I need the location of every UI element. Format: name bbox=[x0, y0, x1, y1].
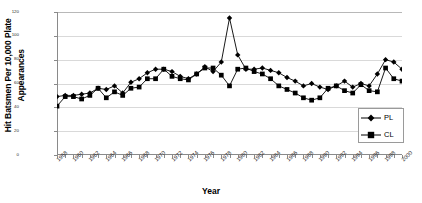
data-point bbox=[260, 65, 265, 70]
data-point bbox=[79, 97, 84, 102]
data-point bbox=[367, 88, 372, 93]
data-point bbox=[334, 84, 339, 89]
data-point bbox=[194, 72, 199, 77]
y-tick-label: 100 bbox=[3, 33, 19, 37]
data-point bbox=[284, 75, 289, 80]
legend-label-cl: CL bbox=[384, 131, 394, 139]
data-point bbox=[88, 93, 93, 98]
data-point bbox=[244, 66, 249, 71]
x-tick-label: 2000 bbox=[401, 150, 414, 163]
data-point bbox=[79, 92, 84, 97]
data-point bbox=[383, 57, 388, 62]
data-point bbox=[268, 76, 273, 81]
data-point bbox=[276, 84, 281, 89]
legend-item-cl[interactable]: CL bbox=[359, 126, 403, 143]
data-point bbox=[161, 67, 166, 72]
data-point bbox=[169, 69, 174, 74]
data-point bbox=[137, 85, 142, 90]
data-point bbox=[170, 74, 175, 79]
data-point bbox=[153, 67, 158, 72]
data-point bbox=[227, 84, 232, 89]
data-point bbox=[227, 15, 232, 20]
data-point bbox=[301, 83, 306, 88]
data-point bbox=[285, 87, 290, 92]
chart-container: Hit Batsmen Per 10,000 Plate Appearances… bbox=[0, 0, 422, 203]
data-point bbox=[129, 86, 134, 91]
data-point bbox=[219, 73, 224, 78]
y-tick-label: 120 bbox=[3, 10, 19, 14]
y-tick-label: 60 bbox=[3, 81, 19, 85]
data-series-layer bbox=[57, 12, 402, 155]
y-tick-label: 0 bbox=[3, 153, 19, 157]
data-point bbox=[293, 78, 298, 83]
data-point bbox=[153, 76, 158, 81]
data-point bbox=[235, 67, 240, 72]
chart-legend: PL CL bbox=[358, 108, 404, 143]
data-point bbox=[359, 82, 364, 87]
data-point bbox=[400, 79, 402, 84]
diamond-marker-icon bbox=[359, 111, 383, 125]
y-tick-label: 40 bbox=[3, 105, 19, 109]
data-point bbox=[63, 94, 68, 99]
data-point bbox=[301, 95, 306, 100]
data-point bbox=[186, 78, 191, 83]
data-point bbox=[317, 84, 322, 89]
data-point bbox=[120, 93, 125, 98]
data-point bbox=[366, 83, 371, 88]
legend-label-pl: PL bbox=[384, 114, 393, 122]
legend-item-pl[interactable]: PL bbox=[359, 109, 403, 126]
data-point bbox=[375, 71, 380, 76]
square-marker-icon bbox=[359, 128, 383, 142]
data-point bbox=[293, 91, 298, 96]
data-point bbox=[318, 95, 323, 100]
data-point bbox=[211, 66, 216, 71]
data-point bbox=[96, 86, 101, 91]
x-axis-title: Year bbox=[0, 186, 422, 196]
data-point bbox=[252, 69, 257, 74]
data-point bbox=[178, 76, 183, 81]
data-point bbox=[375, 89, 380, 94]
data-point bbox=[350, 91, 355, 96]
y-tick-label: 80 bbox=[3, 57, 19, 61]
data-point bbox=[342, 88, 347, 93]
data-point bbox=[260, 72, 265, 77]
data-point bbox=[145, 76, 150, 81]
data-point bbox=[104, 95, 109, 100]
data-point bbox=[71, 94, 76, 99]
data-point bbox=[112, 89, 117, 94]
y-tick-label: 20 bbox=[3, 129, 19, 133]
data-point bbox=[57, 104, 59, 109]
data-point bbox=[309, 81, 314, 86]
data-point bbox=[104, 87, 109, 92]
data-point bbox=[383, 66, 388, 71]
data-point bbox=[268, 68, 273, 73]
data-point bbox=[326, 86, 331, 91]
data-point bbox=[57, 94, 60, 99]
data-point bbox=[309, 98, 314, 103]
data-point bbox=[276, 70, 281, 75]
data-point bbox=[203, 66, 208, 71]
data-point bbox=[235, 52, 240, 57]
data-point bbox=[391, 76, 396, 81]
